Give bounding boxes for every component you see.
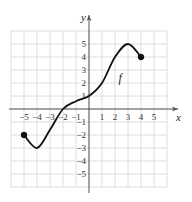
endpoint-dot-icon [21,132,27,138]
y-tick-label: 4 [82,52,87,62]
x-tick-label: −4 [32,112,42,122]
endpoint-dot-icon [138,54,144,60]
y-tick-label: 2 [82,78,87,88]
x-axis-label: x [175,111,181,123]
y-tick-label: −4 [76,156,86,166]
x-tick-label: 1 [100,112,105,122]
x-tick-label: −5 [19,112,29,122]
x-tick-label: 5 [152,112,157,122]
y-tick-label: −2 [76,130,86,140]
y-tick-label: −5 [76,169,86,179]
function-graph: −5−4−3−2−11234554321−1−2−3−4−5 x y f [0,0,192,202]
y-tick-label: −3 [76,143,86,153]
x-tick-label: −3 [45,112,55,122]
x-tick-label: 2 [113,112,118,122]
y-tick-label: 5 [82,39,87,49]
y-tick-label: 3 [82,65,87,75]
y-tick-label: −1 [76,117,86,127]
axes [9,15,178,193]
y-axis-label: y [80,11,86,23]
x-tick-label: 3 [126,112,131,122]
x-tick-label: 4 [139,112,144,122]
